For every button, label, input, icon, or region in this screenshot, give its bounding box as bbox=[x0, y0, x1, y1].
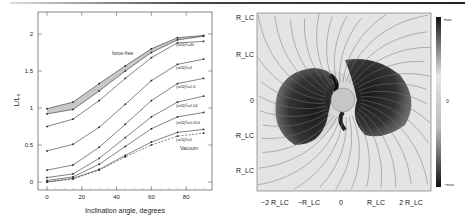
luminosity-chart: 020406080 00.511.52 force-free Vacuum (σ… bbox=[0, 0, 235, 224]
svg-text:(σ/Ω)²=0.4: (σ/Ω)²=0.4 bbox=[176, 84, 196, 89]
svg-text:40: 40 bbox=[113, 194, 120, 200]
colorbar bbox=[436, 17, 441, 187]
series-labels: (σ/Ω)²=40(σ/Ω)²=4(σ/Ω)²=0.4(σ/Ω)²=0.04(σ… bbox=[176, 42, 201, 142]
x-axis-label: Inclination angle, degrees bbox=[85, 207, 165, 215]
map-x-ticks: −2 R_LC −R_LC 0 R_LC 2 R_LC bbox=[261, 199, 423, 207]
svg-text:60: 60 bbox=[148, 194, 155, 200]
svg-text:1.5: 1.5 bbox=[25, 68, 34, 74]
svg-text:−R_LC: −R_LC bbox=[298, 199, 320, 207]
svg-text:80: 80 bbox=[183, 194, 190, 200]
svg-text:−R_LC: −R_LC bbox=[235, 132, 254, 140]
y-axis-label: L/L₀ bbox=[13, 94, 20, 107]
central-star bbox=[331, 88, 355, 112]
svg-text:0: 0 bbox=[250, 97, 254, 104]
svg-text:(σ/Ω)²=0: (σ/Ω)²=0 bbox=[176, 137, 193, 142]
svg-text:0: 0 bbox=[45, 194, 49, 200]
svg-text:(σ/Ω)²=0.04: (σ/Ω)²=0.04 bbox=[176, 103, 198, 108]
svg-text:(σ/Ω)²=4: (σ/Ω)²=4 bbox=[176, 65, 193, 70]
colorbar-max: max bbox=[444, 17, 452, 22]
svg-text:2 R_LC: 2 R_LC bbox=[235, 14, 254, 22]
svg-text:0: 0 bbox=[30, 179, 34, 185]
force-free-label: force-free bbox=[112, 50, 134, 56]
svg-text:−2 R_LC: −2 R_LC bbox=[261, 199, 289, 207]
svg-text:−2 R_LC: −2 R_LC bbox=[235, 167, 254, 175]
field-map: 2 R_LC R_LC 0 −R_LC −2 R_LC −2 R_LC −R_L… bbox=[235, 0, 470, 224]
svg-text:2 R_LC: 2 R_LC bbox=[399, 199, 423, 207]
vacuum-label: Vacuum bbox=[180, 145, 198, 151]
svg-text:R_LC: R_LC bbox=[236, 51, 254, 59]
svg-text:20: 20 bbox=[78, 194, 85, 200]
svg-text:0.5: 0.5 bbox=[25, 142, 34, 148]
svg-text:(σ/Ω)²=0.004: (σ/Ω)²=0.004 bbox=[176, 120, 201, 125]
svg-text:1: 1 bbox=[30, 105, 34, 111]
svg-text:2: 2 bbox=[30, 31, 34, 37]
colorbar-min: −max bbox=[444, 182, 454, 187]
svg-text:R_LC: R_LC bbox=[367, 199, 385, 207]
map-y-ticks: 2 R_LC R_LC 0 −R_LC −2 R_LC bbox=[235, 14, 254, 175]
svg-text:0: 0 bbox=[339, 199, 343, 206]
colorbar-zero: 0 bbox=[446, 98, 449, 104]
svg-text:(σ/Ω)²=40: (σ/Ω)²=40 bbox=[176, 42, 195, 47]
